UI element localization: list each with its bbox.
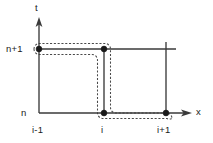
tick-label-time-n: n <box>21 108 26 118</box>
stencil-figure: t x n+1 n i-1 i i+1 <box>0 0 213 143</box>
node-im1-np1 <box>36 46 42 52</box>
node-ip1-n <box>163 110 169 116</box>
node-i-np1 <box>101 46 107 52</box>
dashed-outline-inner <box>34 49 172 119</box>
stencil-highlight-outline <box>34 44 172 120</box>
stencil-solid-lines <box>39 42 176 113</box>
stencil-canvas <box>0 0 213 143</box>
time-axis-label: t <box>35 3 38 13</box>
stencil-nodes <box>36 46 169 116</box>
axes-group <box>36 17 192 117</box>
tick-label-space-im1: i-1 <box>32 125 43 135</box>
tick-label-space-i: i <box>101 125 103 135</box>
tick-label-space-ip1: i+1 <box>157 125 171 135</box>
space-axis-label: x <box>196 107 201 117</box>
tick-label-time-np1: n+1 <box>6 44 23 54</box>
node-i-n <box>101 110 107 116</box>
